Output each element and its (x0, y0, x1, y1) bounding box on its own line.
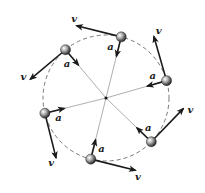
velocity-label: v (20, 71, 26, 82)
ball (61, 45, 71, 55)
particle-2: va (20, 45, 78, 83)
acceleration-label: a (64, 58, 70, 69)
acceleration-label: a (98, 143, 104, 154)
velocity-label: v (187, 104, 193, 115)
velocity-label: v (135, 171, 141, 182)
acceleration-label: a (145, 122, 151, 133)
particle-5: va (137, 104, 194, 147)
ball (86, 154, 96, 164)
ball (162, 76, 172, 86)
acceleration-label: a (107, 41, 113, 52)
acceleration-label: a (150, 70, 156, 81)
acceleration-label: a (55, 112, 61, 123)
velocity-label: v (156, 25, 162, 36)
ball (116, 32, 126, 42)
velocity-arrow (30, 50, 65, 80)
particle-3: va (147, 25, 171, 86)
center-point (104, 96, 107, 99)
velocity-label: v (71, 13, 77, 24)
particle-1: va (71, 13, 126, 56)
particle-4: va (40, 108, 64, 168)
ball (146, 137, 156, 147)
circular-motion-diagram: vavavavavava (0, 0, 205, 193)
ball (40, 108, 50, 118)
velocity-label: v (48, 157, 54, 168)
